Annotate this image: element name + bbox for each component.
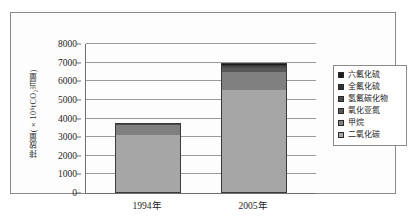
legend-swatch-icon: [338, 96, 344, 102]
y-axis-tick: 3000: [58, 132, 77, 142]
bar-segment-甲烷: [116, 125, 180, 134]
bar-2005年[interactable]: [221, 63, 287, 193]
y-axis-title: 排放量(×10⁶tCO₂当量): [25, 33, 41, 193]
bar-1994年[interactable]: [115, 123, 181, 193]
y-axis-tick: 6000: [58, 76, 77, 86]
legend-item-甲烷[interactable]: 甲烷: [338, 117, 403, 129]
legend-swatch-icon: [338, 84, 344, 90]
y-axis-tick: 1000: [58, 169, 77, 179]
legend-item-label: 甲烷: [348, 119, 364, 127]
chart-frame: 排放量(×10⁶tCO₂当量) 800070006000500040003000…: [10, 12, 396, 194]
y-axis-title-label: 排放量(×10⁶tCO₂当量): [28, 69, 39, 158]
legend-item-label: 六氟化硫: [348, 71, 380, 79]
legend-item-全氟化硫[interactable]: 全氟化硫: [338, 81, 403, 93]
y-axis-tick: 8000: [58, 39, 77, 49]
x-axis-label-1994年: 1994年: [133, 198, 162, 212]
legend-item-label: 全氟化硫: [348, 83, 380, 91]
legend-swatch-icon: [338, 108, 344, 114]
legend-swatch-icon: [338, 120, 344, 126]
chart-legend: 六氟化硫全氟化硫氢氟碳化物氧化亚氮甲烷二氧化碳: [333, 65, 407, 146]
gridline: [86, 43, 316, 44]
y-axis-tick-labels: 800070006000500040003000200010000: [41, 37, 81, 197]
y-axis-tickmark: [77, 137, 81, 138]
bar-segment-二氧化碳: [222, 90, 286, 192]
y-axis-tickmark: [77, 118, 81, 119]
y-axis-tickmark: [77, 193, 81, 194]
y-axis-tickmark: [77, 81, 81, 82]
legend-item-label: 二氧化碳: [348, 131, 380, 139]
y-axis-tick: 4000: [58, 114, 77, 124]
y-axis-tickmark: [77, 174, 81, 175]
legend-item-氧化亚氮[interactable]: 氧化亚氮: [338, 105, 403, 117]
legend-item-label: 氧化亚氮: [348, 107, 380, 115]
legend-item-六氟化硫[interactable]: 六氟化硫: [338, 69, 403, 81]
y-axis-tickmark: [77, 99, 81, 100]
y-axis-tickmark: [77, 62, 81, 63]
bar-segment-甲烷: [222, 72, 286, 89]
y-axis-tick: 7000: [58, 58, 77, 68]
y-axis-tick: 2000: [58, 151, 77, 161]
y-axis-tick: 5000: [58, 95, 77, 105]
plot-area: [85, 44, 316, 194]
legend-item-label: 氢氟碳化物: [348, 95, 388, 103]
legend-item-二氧化碳[interactable]: 二氧化碳: [338, 129, 403, 141]
legend-swatch-icon: [338, 72, 344, 78]
y-axis-tickmark: [77, 44, 81, 45]
legend-swatch-icon: [338, 132, 344, 138]
x-axis-label-2005年: 2005年: [239, 198, 268, 212]
bar-segment-二氧化碳: [116, 135, 180, 192]
legend-item-氢氟碳化物[interactable]: 氢氟碳化物: [338, 93, 403, 105]
y-axis-tickmark: [77, 155, 81, 156]
